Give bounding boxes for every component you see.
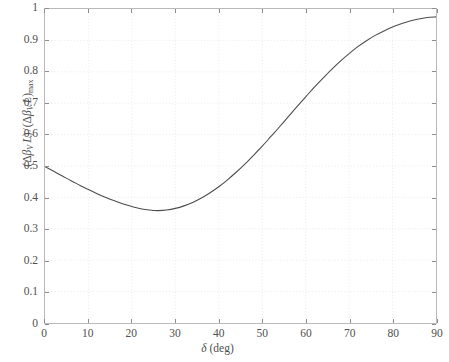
- y-axis-expression: (ΔβV L) / (ΔβV L)max: [21, 80, 33, 167]
- x-tick-mark: [262, 319, 263, 323]
- x-tick-mark: [131, 319, 132, 323]
- y-tick-mark-right: [432, 40, 436, 41]
- y-tick-mark: [45, 166, 49, 167]
- y-tick-mark-right: [432, 324, 436, 325]
- x-tick-label: 60: [300, 328, 312, 340]
- x-tick-mark: [44, 319, 45, 323]
- x-tick-label: 20: [126, 328, 138, 340]
- y-tick-mark-right: [432, 198, 436, 199]
- x-tick-mark: [437, 319, 438, 323]
- y-tick-mark: [45, 134, 49, 135]
- x-tick-mark-top: [262, 9, 263, 13]
- x-tick-mark-top: [393, 9, 394, 13]
- y-tick-mark: [45, 8, 49, 9]
- x-tick-mark: [350, 319, 351, 323]
- x-tick-mark-top: [88, 9, 89, 13]
- y-tick-label: 0.1: [0, 286, 38, 298]
- y-tick-mark-right: [432, 8, 436, 9]
- y-tick-mark-right: [432, 103, 436, 104]
- curve-path: [45, 17, 436, 211]
- x-tick-label: 50: [257, 328, 269, 340]
- y-tick-mark-right: [432, 166, 436, 167]
- x-tick-mark-top: [219, 9, 220, 13]
- y-tick-label: 1: [0, 2, 38, 14]
- x-tick-mark-top: [306, 9, 307, 13]
- x-tick-label: 90: [431, 328, 443, 340]
- x-axis-symbol: δ: [201, 342, 206, 354]
- x-tick-mark: [393, 319, 394, 323]
- x-tick-label: 80: [388, 328, 400, 340]
- y-tick-mark: [45, 324, 49, 325]
- x-tick-mark-top: [437, 9, 438, 13]
- x-tick-label: 0: [41, 328, 47, 340]
- y-tick-mark-right: [432, 71, 436, 72]
- y-tick-mark: [45, 103, 49, 104]
- x-tick-mark: [306, 319, 307, 323]
- x-tick-mark-top: [175, 9, 176, 13]
- x-tick-label: 10: [82, 328, 94, 340]
- y-tick-mark-right: [432, 261, 436, 262]
- y-tick-label: 0.2: [0, 255, 38, 267]
- y-tick-label: 0: [0, 318, 38, 330]
- y-axis-title: (ΔβV L) / (ΔβV L)max: [21, 43, 35, 203]
- x-tick-mark: [175, 319, 176, 323]
- x-axis-title: δ (deg): [0, 342, 449, 354]
- chart-figure: 00.10.20.30.40.50.60.70.80.91 0102030405…: [0, 0, 449, 362]
- x-axis-unit: (deg): [209, 342, 233, 354]
- x-tick-mark-top: [350, 9, 351, 13]
- x-tick-label: 40: [213, 328, 225, 340]
- x-tick-label: 30: [169, 328, 181, 340]
- y-tick-mark-right: [432, 292, 436, 293]
- y-tick-mark-right: [432, 134, 436, 135]
- y-tick-mark: [45, 198, 49, 199]
- data-curve: [45, 9, 436, 323]
- y-tick-mark: [45, 71, 49, 72]
- x-tick-label: 70: [344, 328, 356, 340]
- y-tick-label: 0.3: [0, 223, 38, 235]
- plot-area: [44, 8, 437, 324]
- y-tick-mark: [45, 261, 49, 262]
- x-tick-mark-top: [44, 9, 45, 13]
- x-tick-mark-top: [131, 9, 132, 13]
- y-tick-mark: [45, 40, 49, 41]
- y-tick-mark: [45, 292, 49, 293]
- x-tick-mark: [219, 319, 220, 323]
- y-tick-mark-right: [432, 229, 436, 230]
- y-tick-mark: [45, 229, 49, 230]
- x-tick-mark: [88, 319, 89, 323]
